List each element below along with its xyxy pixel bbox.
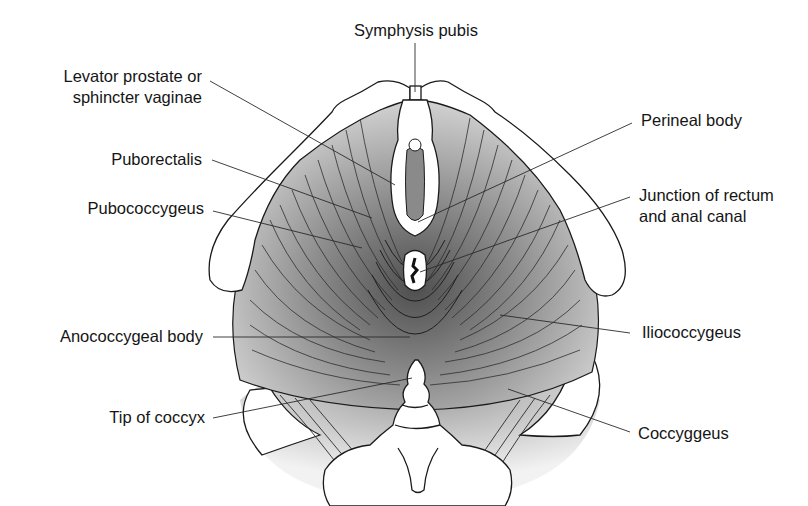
label-junction-line1: Junction of rectum — [639, 185, 774, 206]
label-tip-of-coccyx: Tip of coccyx — [20, 407, 205, 428]
label-junction-line2: and anal canal — [639, 206, 774, 227]
label-anococcygeal-body: Anococcygeal body — [10, 326, 203, 347]
label-pubococcygeus: Pubococcygeus — [20, 198, 204, 219]
label-levator-prostate-line2: sphincter vaginae — [20, 87, 202, 108]
label-symphysis-pubis: Symphysis pubis — [336, 20, 496, 41]
label-levator-prostate: Levator prostate or sphincter vaginae — [20, 66, 202, 108]
label-iliococcygeus: Iliococcygeus — [642, 322, 741, 343]
label-puborectalis: Puborectalis — [20, 149, 202, 170]
label-junction-rectum-anal-canal: Junction of rectum and anal canal — [639, 185, 774, 227]
label-perineal-body: Perineal body — [641, 110, 742, 131]
label-levator-prostate-line1: Levator prostate or — [20, 66, 202, 87]
label-coccygeus: Coccyggeus — [638, 423, 729, 444]
